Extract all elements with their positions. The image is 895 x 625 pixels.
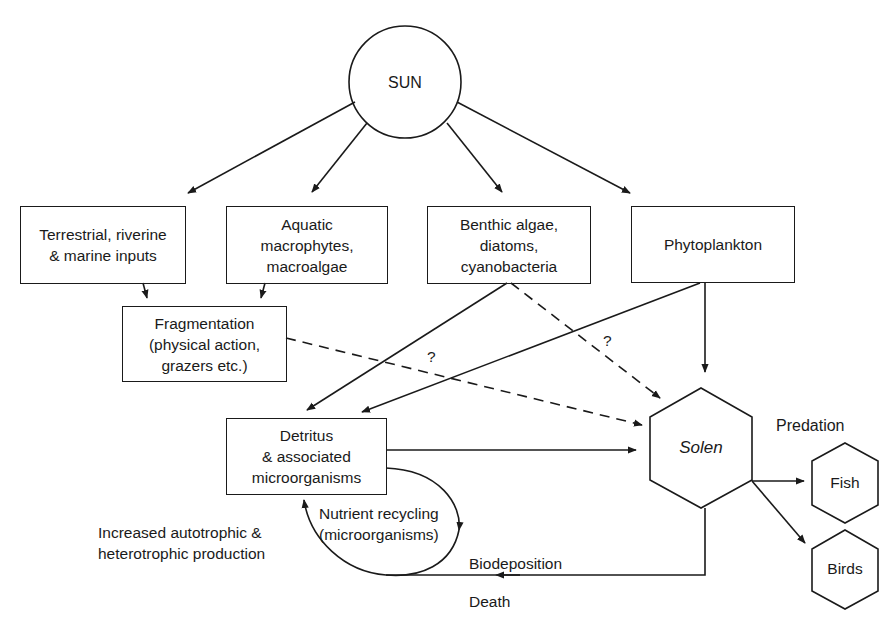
solen-label: Solen <box>661 437 741 458</box>
birds-label: Birds <box>815 558 875 579</box>
arrow-sun-benthic <box>447 123 502 192</box>
arrow-phytoplankton-detritus <box>362 283 700 412</box>
phytoplankton-box: Phytoplankton <box>631 206 795 283</box>
question-mark-benthic: ? <box>603 330 612 351</box>
arrow-sun-aquatic <box>312 123 367 192</box>
biodeposition-label: Biodeposition <box>469 553 562 574</box>
sun-label: SUN <box>365 72 445 93</box>
arrow-solen-birds <box>752 481 805 543</box>
arrow-benthic-detritus <box>307 283 507 410</box>
dashed-arrow-benthic-solen <box>511 283 660 398</box>
terrestrial-inputs-box: Terrestrial, riverine & marine inputs <box>20 206 186 284</box>
arrow-sun-terrestrial <box>188 102 355 193</box>
arrow-aquatic-fragmentation <box>261 283 265 298</box>
detritus-box: Detritus & associated microorganisms <box>226 418 387 495</box>
aquatic-macrophytes-box: Aquatic macrophytes, macroalgae <box>226 206 388 284</box>
arrow-terrestrial-fragmentation <box>143 283 147 298</box>
death-label: Death <box>469 591 510 612</box>
nutrient-recycling-label: Nutrient recycling (microorganisms) <box>319 503 439 545</box>
fish-label: Fish <box>815 472 875 493</box>
dashed-arrow-fragmentation-solen <box>286 338 642 425</box>
increased-production-label: Increased autotrophic & heterotrophic pr… <box>98 522 265 564</box>
benthic-algae-box: Benthic algae, diatoms, cyanobacteria <box>427 206 591 284</box>
question-mark-fragmentation: ? <box>427 346 436 367</box>
arrow-sun-phytoplankton <box>457 102 630 193</box>
predation-label: Predation <box>776 415 845 436</box>
fragmentation-box: Fragmentation (physical action, grazers … <box>122 306 287 382</box>
